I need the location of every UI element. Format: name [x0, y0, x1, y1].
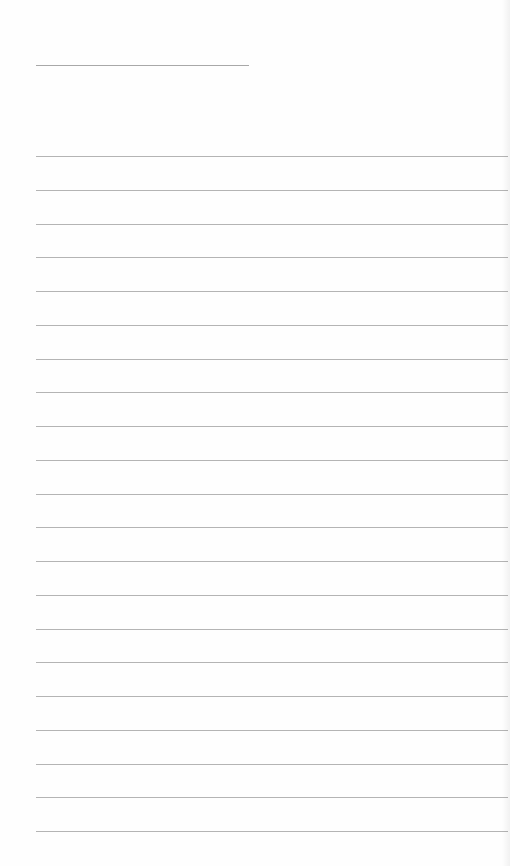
- line-text[interactable]: [38, 169, 504, 191]
- line-text[interactable]: [38, 540, 504, 562]
- line-text[interactable]: [38, 270, 504, 292]
- ruled-line: [36, 156, 508, 157]
- line-text[interactable]: [38, 608, 504, 630]
- line-text[interactable]: [38, 203, 504, 225]
- ruled-line: [36, 696, 508, 697]
- line-text[interactable]: [38, 675, 504, 697]
- ruled-line: [36, 224, 508, 225]
- line-text[interactable]: [38, 405, 504, 427]
- line-text[interactable]: [38, 743, 504, 765]
- notepad-page: [0, 0, 510, 866]
- line-text[interactable]: [38, 574, 504, 596]
- ruled-line: [36, 392, 508, 393]
- ruled-line: [36, 662, 508, 663]
- title-field[interactable]: [36, 44, 249, 64]
- ruled-line: [36, 460, 508, 461]
- ruled-line: [36, 595, 508, 596]
- ruled-line: [36, 527, 508, 528]
- line-text[interactable]: [38, 439, 504, 461]
- line-text[interactable]: [38, 810, 504, 832]
- line-text[interactable]: [38, 776, 504, 798]
- ruled-line: [36, 831, 508, 832]
- line-text[interactable]: [38, 135, 504, 157]
- ruled-line: [36, 291, 508, 292]
- line-text[interactable]: [38, 338, 504, 360]
- ruled-line: [36, 764, 508, 765]
- line-text[interactable]: [38, 473, 504, 495]
- ruled-line: [36, 426, 508, 427]
- ruled-line: [36, 494, 508, 495]
- ruled-line: [36, 561, 508, 562]
- ruled-line: [36, 257, 508, 258]
- ruled-line: [36, 797, 508, 798]
- ruled-line: [36, 730, 508, 731]
- ruled-line: [36, 325, 508, 326]
- line-text[interactable]: [38, 236, 504, 258]
- title-underline: [36, 65, 249, 66]
- line-text[interactable]: [38, 709, 504, 731]
- line-text[interactable]: [38, 371, 504, 393]
- ruled-line: [36, 190, 508, 191]
- ruled-line: [36, 629, 508, 630]
- line-text[interactable]: [38, 304, 504, 326]
- line-text[interactable]: [38, 641, 504, 663]
- line-text[interactable]: [38, 506, 504, 528]
- page-edge-shadow: [502, 0, 510, 866]
- ruled-line: [36, 359, 508, 360]
